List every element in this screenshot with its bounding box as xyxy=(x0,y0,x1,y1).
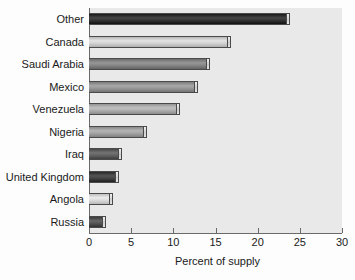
bar-angola[interactable] xyxy=(89,193,113,205)
bar-chart: OtherCanadaSaudi ArabiaMexicoVenezuelaNi… xyxy=(0,0,355,280)
x-tick-0 xyxy=(89,228,90,233)
x-tick-label-20: 20 xyxy=(252,236,264,248)
bar-venezuela[interactable] xyxy=(89,103,180,115)
y-tick-label-venezuela: Venezuela xyxy=(33,103,84,115)
bar-row xyxy=(0,143,355,166)
bar-russia[interactable] xyxy=(89,216,106,228)
bar-mexico[interactable] xyxy=(89,81,198,93)
x-tick-20 xyxy=(258,228,259,233)
x-tick-label-5: 5 xyxy=(128,236,134,248)
bar-canada[interactable] xyxy=(89,36,231,48)
bar-row xyxy=(0,8,355,31)
y-tick-label-nigeria: Nigeria xyxy=(49,126,84,138)
y-tick-label-mexico: Mexico xyxy=(49,81,84,93)
x-tick-15 xyxy=(216,228,217,233)
x-tick-5 xyxy=(131,228,132,233)
x-tick-label-15: 15 xyxy=(209,236,221,248)
y-tick-label-iraq: Iraq xyxy=(65,148,84,160)
x-tick-10 xyxy=(173,228,174,233)
y-tick-label-saudi-arabia: Saudi Arabia xyxy=(22,58,84,70)
x-axis-line xyxy=(89,233,342,234)
x-tick-25 xyxy=(300,228,301,233)
x-axis-title-text: Percent of supply xyxy=(175,255,260,267)
bar-nigeria[interactable] xyxy=(89,126,147,138)
y-tick-label-united-kingdom: United Kingdom xyxy=(6,171,84,183)
bar-saudi-arabia[interactable] xyxy=(89,58,210,70)
y-tick-label-other: Other xyxy=(56,13,84,25)
x-tick-label-25: 25 xyxy=(294,236,306,248)
y-tick-label-russia: Russia xyxy=(50,216,84,228)
y-tick-label-canada: Canada xyxy=(45,36,84,48)
x-axis-title: Percent of supply xyxy=(0,255,355,267)
x-tick-30 xyxy=(342,228,343,233)
bar-other[interactable] xyxy=(89,13,290,25)
x-tick-label-10: 10 xyxy=(167,236,179,248)
bar-united-kingdom[interactable] xyxy=(89,171,119,183)
x-tick-label-0: 0 xyxy=(86,236,92,248)
x-tick-label-30: 30 xyxy=(336,236,348,248)
y-tick-label-angola: Angola xyxy=(50,193,84,205)
bar-iraq[interactable] xyxy=(89,148,122,160)
